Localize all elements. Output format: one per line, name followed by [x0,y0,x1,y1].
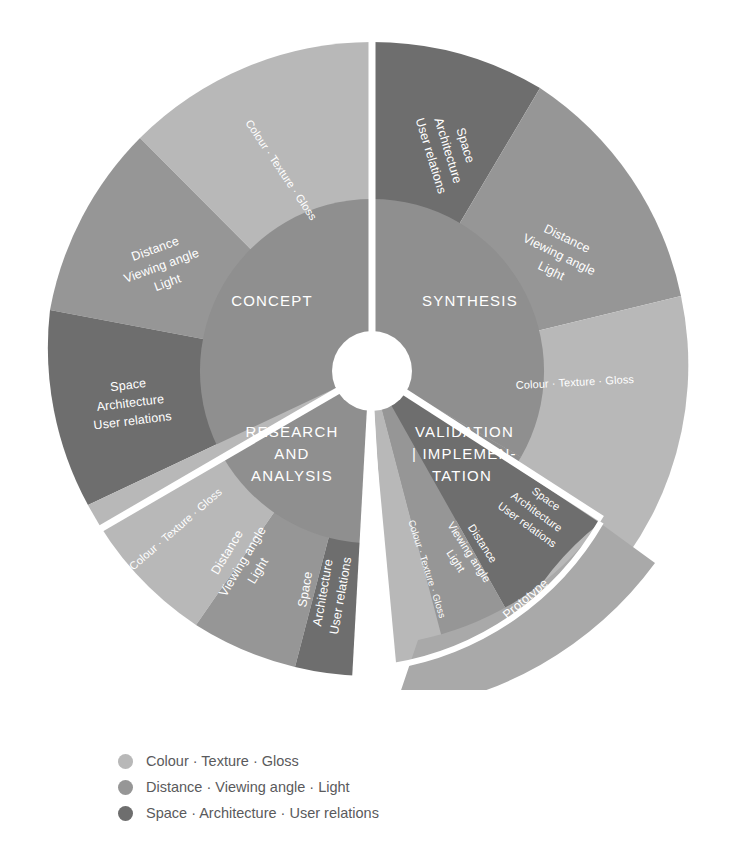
legend-item-space[interactable]: Space · Architecture · User relations [118,800,538,826]
hub-label-synthesis: SYNTHESIS [422,292,518,309]
legend-item-colour[interactable]: Colour · Texture · Gloss [118,748,538,774]
legend-label-distance: Distance · Viewing angle · Light [146,779,350,795]
hub-label-validation-l1: VALIDATION [415,423,514,440]
hub-label-concept: CONCEPT [231,292,313,309]
legend-swatch-distance [118,780,133,795]
sunburst-svg: CONCEPT SYNTHESIS RESEARCH AND ANALYSIS … [0,0,733,690]
legend-swatch-colour [118,754,133,769]
hub-label-research-l2: AND [274,445,309,462]
hub-label-validation-l2: | IMPLEMEN- [412,445,517,462]
legend-swatch-space [118,806,133,821]
hub-label-research-l1: RESEARCH [246,423,339,440]
legend-label-space: Space · Architecture · User relations [146,805,379,821]
hub-label-validation-l3: TATION [432,467,492,484]
legend-item-distance[interactable]: Distance · Viewing angle · Light [118,774,538,800]
legend-label-colour: Colour · Texture · Gloss [146,753,299,769]
center-hole [332,331,412,411]
sunburst-chart: CONCEPT SYNTHESIS RESEARCH AND ANALYSIS … [0,0,733,690]
legend: Colour · Texture · Gloss Distance · View… [118,748,538,826]
hub-label-research-l3: ANALYSIS [251,467,333,484]
